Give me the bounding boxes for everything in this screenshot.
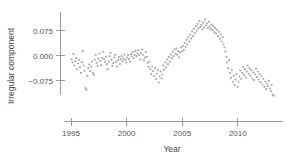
data-point: [211, 29, 213, 31]
data-point: [72, 53, 74, 55]
data-point: [109, 52, 111, 54]
data-point: [181, 50, 183, 52]
data-point: [128, 58, 130, 60]
data-point: [103, 58, 105, 60]
data-point: [215, 32, 217, 34]
x-tick-label-3: 2010: [229, 129, 247, 138]
data-point: [118, 56, 120, 58]
data-point: [218, 31, 220, 33]
data-point: [252, 71, 254, 73]
data-point: [159, 70, 161, 72]
data-point: [240, 78, 242, 80]
data-point: [203, 26, 205, 28]
data-point: [190, 37, 192, 39]
data-point: [216, 29, 218, 31]
data-point: [197, 23, 199, 25]
data-point: [172, 55, 174, 57]
data-point: [247, 64, 249, 66]
data-point: [196, 30, 198, 32]
data-point: [117, 59, 119, 61]
data-point: [197, 27, 199, 29]
data-point: [212, 25, 214, 27]
data-point: [100, 64, 102, 66]
data-point: [173, 48, 175, 50]
data-point: [187, 36, 189, 38]
data-point: [95, 54, 97, 56]
data-point: [95, 62, 97, 64]
data-point: [182, 45, 184, 47]
data-point: [171, 57, 173, 59]
x-tick-label-0: 1995: [62, 129, 80, 138]
y-tick-label-0: 0.075: [33, 27, 54, 36]
y-tick-label-1: 0.000: [33, 52, 54, 61]
data-point: [251, 77, 253, 79]
data-point: [256, 76, 258, 78]
data-point: [194, 32, 196, 34]
data-point: [162, 64, 164, 66]
data-point: [172, 51, 174, 53]
data-point: [137, 49, 139, 51]
data-point: [98, 52, 100, 54]
data-point: [83, 70, 85, 72]
data-point: [221, 40, 223, 42]
data-point: [220, 33, 222, 35]
data-point: [199, 26, 201, 28]
data-point: [177, 50, 179, 52]
data-point: [159, 75, 161, 77]
y-axis-title: Irregular component: [6, 27, 16, 104]
data-point: [115, 61, 117, 63]
data-point: [193, 28, 195, 30]
data-point: [204, 18, 206, 20]
data-point: [140, 52, 142, 54]
data-point: [246, 70, 248, 72]
data-point: [231, 69, 233, 71]
data-point: [250, 69, 252, 71]
data-point: [248, 67, 250, 69]
data-point: [230, 77, 232, 79]
data-point: [136, 52, 138, 54]
data-point: [213, 31, 215, 33]
data-point: [99, 60, 101, 62]
data-point: [257, 70, 259, 72]
data-point: [239, 69, 241, 71]
data-point: [157, 69, 159, 71]
data-point: [247, 73, 249, 75]
data-point: [263, 86, 265, 88]
data-point: [180, 46, 182, 48]
data-point: [150, 73, 152, 75]
data-point: [96, 65, 98, 67]
data-point: [174, 52, 176, 54]
data-point: [254, 73, 256, 75]
data-point: [147, 62, 149, 64]
data-point: [210, 23, 212, 25]
data-point: [253, 79, 255, 81]
data-point: [259, 73, 261, 75]
data-point: [120, 58, 122, 60]
data-point: [222, 43, 224, 45]
data-point: [179, 51, 181, 53]
data-point: [88, 63, 90, 65]
data-point: [228, 59, 230, 61]
data-point: [129, 60, 131, 62]
y-tick-label-2: −0.075: [28, 77, 53, 86]
data-point: [114, 54, 116, 56]
data-point: [189, 33, 191, 35]
data-point: [122, 60, 124, 62]
data-point: [166, 58, 168, 60]
data-point: [110, 59, 112, 61]
data-point: [184, 46, 186, 48]
data-point: [227, 67, 229, 69]
data-point: [161, 73, 163, 75]
data-point: [153, 75, 155, 77]
data-point: [92, 72, 94, 74]
data-point: [125, 61, 127, 63]
data-point: [261, 75, 263, 77]
data-point: [85, 89, 87, 91]
data-point: [101, 57, 103, 59]
data-point: [138, 54, 140, 56]
data-point: [183, 49, 185, 51]
data-point: [134, 50, 136, 52]
data-point: [186, 43, 188, 45]
data-point: [146, 56, 148, 58]
data-point: [104, 61, 106, 63]
